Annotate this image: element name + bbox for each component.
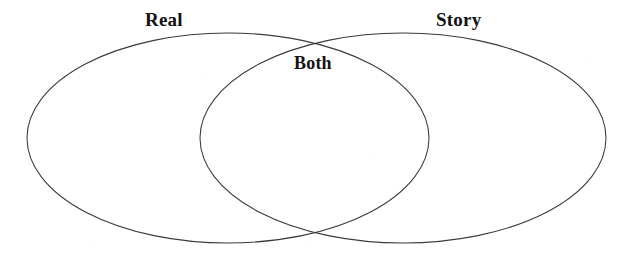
- venn-circle-story[interactable]: [200, 33, 606, 243]
- venn-diagram-canvas: [0, 0, 631, 266]
- venn-label-real: Real: [145, 10, 183, 29]
- venn-label-story: Story: [436, 10, 481, 29]
- venn-diagram-page: Real Story Both: [0, 0, 631, 266]
- venn-label-both: Both: [294, 54, 332, 72]
- venn-circle-real[interactable]: [27, 33, 429, 243]
